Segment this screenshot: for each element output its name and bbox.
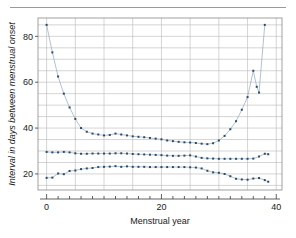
plot-background: [38, 18, 282, 190]
y-axis-label: Interval in days between menstrual onset: [7, 22, 17, 186]
y-tick-label: 80: [23, 32, 33, 42]
y-tick-label: 20: [23, 169, 33, 179]
top-divider-rule: [10, 7, 286, 8]
x-axis: 02040: [40, 194, 281, 212]
x-tick-label: 0: [44, 202, 49, 212]
x-axis-label: Menstrual year: [130, 216, 190, 226]
y-axis: 20406080: [23, 32, 38, 180]
x-tick-label: 40: [271, 202, 281, 212]
y-tick-label: 40: [23, 123, 33, 133]
figure-container: 02040 20406080 Menstrual year Interval i…: [0, 0, 296, 238]
y-tick-label: 60: [23, 77, 33, 87]
x-tick-label: 20: [156, 202, 166, 212]
chart-canvas: 02040 20406080 Menstrual year Interval i…: [0, 0, 296, 238]
